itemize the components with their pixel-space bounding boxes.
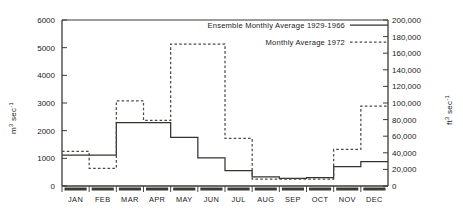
- x-axis-month-separators: [62, 186, 386, 192]
- left-axis-title-m: m: [9, 127, 18, 134]
- left-axis-tick-labels: 0100020003000400050006000: [37, 16, 55, 191]
- left-tick-label: 3000: [37, 99, 55, 108]
- left-axis-title-sec: sec: [9, 108, 18, 121]
- month-label-mar: MAR: [121, 195, 139, 204]
- month-label-apr: APR: [149, 195, 165, 204]
- legend-label-1972: Monthly Average 1972: [266, 38, 345, 47]
- month-label-dec: DEC: [366, 195, 383, 204]
- svg-text:ft3 sec-1: ft3 sec-1: [444, 95, 454, 125]
- x-axis-month-labels: JANFEBMARAPRMAYJUNJULAUGSEPOCTNOVDEC: [68, 195, 383, 204]
- right-tick-label: 40,000: [392, 149, 417, 158]
- svg-text:m3 sec-1: m3 sec-1: [8, 102, 18, 134]
- month-label-may: MAY: [176, 195, 193, 204]
- legend: Ensemble Monthly Average 1929-1966 Month…: [207, 21, 388, 47]
- month-label-feb: FEB: [95, 195, 111, 204]
- left-tick-label: 1000: [37, 154, 55, 163]
- chart-canvas: 0100020003000400050006000 020,00040,0006…: [0, 0, 463, 221]
- right-tick-label: 200,000: [392, 16, 421, 25]
- left-axis-title: m3 sec-1: [8, 102, 18, 134]
- right-tick-label: 20,000: [392, 165, 417, 174]
- right-tick-label: 140,000: [392, 66, 421, 75]
- month-label-jul: JUL: [231, 195, 245, 204]
- month-label-oct: OCT: [312, 195, 329, 204]
- month-label-jun: JUN: [204, 195, 220, 204]
- right-tick-label: 80,000: [392, 116, 417, 125]
- left-axis-ticks: [62, 20, 67, 186]
- right-tick-label: 100,000: [392, 99, 421, 108]
- discharge-step-chart: 0100020003000400050006000 020,00040,0006…: [0, 0, 463, 221]
- left-tick-label: 2000: [37, 127, 55, 136]
- right-axis-title-sec-exp: -1: [444, 95, 450, 101]
- right-tick-label: 180,000: [392, 33, 421, 42]
- right-axis-title: ft3 sec-1: [444, 95, 454, 125]
- right-axis-tick-labels: 020,00040,00060,00080,000100,000120,0001…: [392, 16, 421, 191]
- month-label-jan: JAN: [68, 195, 83, 204]
- month-label-nov: NOV: [339, 195, 356, 204]
- left-tick-label: 6000: [37, 16, 55, 25]
- right-tick-label: 0: [392, 182, 397, 191]
- month-label-sep: SEP: [285, 195, 301, 204]
- left-tick-label: 0: [51, 182, 56, 191]
- right-axis-title-sec: sec: [445, 101, 454, 114]
- legend-label-ensemble: Ensemble Monthly Average 1929-1966: [207, 21, 345, 30]
- right-tick-label: 160,000: [392, 49, 421, 58]
- right-tick-label: 120,000: [392, 82, 421, 91]
- left-tick-label: 5000: [37, 44, 55, 53]
- series-ensemble-1929-1966: [62, 123, 388, 179]
- left-tick-label: 4000: [37, 71, 55, 80]
- month-label-aug: AUG: [257, 195, 274, 204]
- left-axis-title-sec-exp: -1: [8, 102, 14, 108]
- right-tick-label: 60,000: [392, 132, 417, 141]
